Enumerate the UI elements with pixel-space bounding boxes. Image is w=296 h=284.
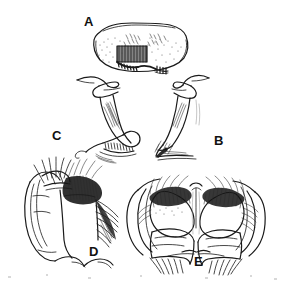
figure-label-b: B (214, 134, 223, 147)
figure-label-c: C (52, 129, 61, 142)
figure-label-a: A (84, 15, 93, 28)
scan-artifacts (8, 274, 277, 280)
figure-label-d: D (89, 245, 98, 258)
illustration-plate: A B C D E (0, 0, 296, 284)
panel-b-artwork (155, 76, 209, 160)
plate-artwork (0, 0, 296, 284)
figure-label-e: E (194, 255, 203, 268)
panel-d-artwork (25, 157, 118, 268)
panel-c-artwork (75, 77, 140, 163)
panel-a-artwork (94, 23, 188, 74)
